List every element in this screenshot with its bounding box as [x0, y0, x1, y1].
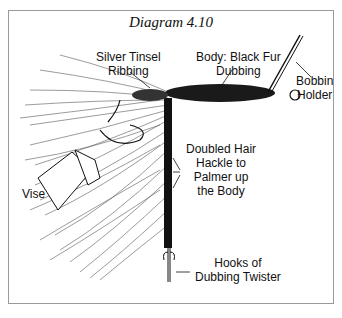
dubbing-twister-hooks [164, 248, 175, 282]
label-hooks-dubbing-twister: Hooks of Dubbing Twister [195, 256, 281, 284]
label-doubled-hair-hackle: Doubled Hair Hackle to Palmer up the Bod… [186, 142, 256, 198]
label-bobbin-holder: Bobbin Holder [296, 74, 333, 102]
label-silver-tinsel-ribbing: Silver Tinsel Ribbing [96, 50, 161, 78]
dubbing-body [132, 84, 275, 102]
label-vise: Vise [22, 187, 45, 201]
vise-jaw [38, 150, 100, 210]
label-body-dubbing: Body: Black Fur Dubbing [196, 50, 281, 78]
fly-tying-illustration [0, 0, 342, 318]
hackle-stem [164, 98, 172, 248]
hook [100, 100, 143, 143]
